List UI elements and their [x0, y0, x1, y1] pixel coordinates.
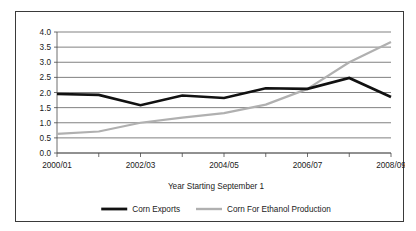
x-axis-title: Year Starting September 1 [168, 182, 265, 191]
legend-label-corn-for-ethanol-production: Corn For Ethanol Production [227, 205, 331, 214]
series-line-corn-for-ethanol-production [57, 42, 391, 134]
y-tick-label: 1.0 [40, 119, 52, 128]
x-tick-label: 2008/09 [376, 161, 405, 170]
y-tickmarks-group [54, 32, 57, 153]
x-tick-label: 2004/05 [209, 161, 239, 170]
y-tick-label: 3.5 [40, 43, 52, 52]
legend-label-corn-exports: Corn Exports [132, 205, 180, 214]
x-tick-label: 2002/03 [126, 161, 156, 170]
chart-plot-wrapper: 0.00.51.01.52.02.53.03.54.0 2000/012002/… [16, 12, 405, 223]
series-line-corn-exports [57, 78, 391, 105]
x-tick-labels-group: 2000/012002/032004/052006/072008/09 [42, 161, 405, 170]
line-chart: 0.00.51.01.52.02.53.03.54.0 2000/012002/… [16, 12, 405, 223]
y-tick-label: 0.0 [40, 149, 52, 158]
chart-legend: Corn Exports Corn For Ethanol Production [101, 205, 331, 214]
y-tick-label: 2.5 [40, 73, 52, 82]
y-tick-label: 2.0 [40, 89, 52, 98]
chart-figure-border: 0.00.51.01.52.02.53.03.54.0 2000/012002/… [15, 11, 404, 222]
x-tick-label: 2000/01 [42, 161, 72, 170]
y-tick-label: 1.5 [40, 104, 52, 113]
y-tick-label: 4.0 [40, 28, 52, 37]
gridlines-group [57, 32, 391, 153]
y-tick-labels-group: 0.00.51.01.52.02.53.03.54.0 [40, 28, 52, 158]
y-tick-label: 0.5 [40, 134, 52, 143]
y-tick-label: 3.0 [40, 58, 52, 67]
x-tick-label: 2006/07 [293, 161, 323, 170]
x-tickmarks-group [57, 153, 391, 157]
